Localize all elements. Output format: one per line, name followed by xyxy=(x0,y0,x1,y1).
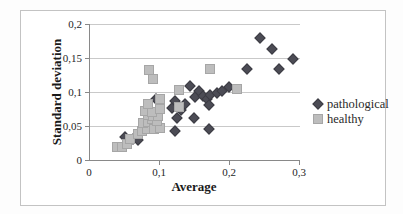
y-tick-label: 0 xyxy=(52,154,82,166)
data-point-healthy xyxy=(232,84,242,94)
y-tick-label: 0,1 xyxy=(52,86,82,98)
scatter-chart-canvas: Standard deviation Average pathologicalh… xyxy=(0,0,403,214)
y-tick-mark xyxy=(85,126,89,127)
legend-label: healthy xyxy=(327,112,364,126)
y-tick-mark xyxy=(85,24,89,25)
x-tick-label: 0 xyxy=(74,166,104,178)
chart-frame: Standard deviation Average pathologicalh… xyxy=(20,10,386,206)
y-tick-label: 0,15 xyxy=(52,52,82,64)
data-point-healthy xyxy=(155,94,165,104)
y-gridline xyxy=(90,58,300,59)
data-point-healthy xyxy=(174,102,184,112)
y-tick-mark xyxy=(85,92,89,93)
data-point-healthy xyxy=(155,104,165,114)
y-tick-mark xyxy=(85,160,89,161)
data-point-pathological xyxy=(241,63,252,74)
data-point-pathological xyxy=(188,112,199,123)
x-axis-title: Average xyxy=(171,179,216,195)
legend-item-pathological: pathological xyxy=(313,97,389,111)
y-gridline xyxy=(90,24,300,25)
data-point-pathological xyxy=(266,43,277,54)
data-point-healthy xyxy=(143,99,153,109)
data-point-pathological xyxy=(203,123,214,134)
data-point-pathological xyxy=(254,32,265,43)
x-tick-label: 0,1 xyxy=(144,166,174,178)
legend-label: pathological xyxy=(327,97,389,111)
x-tick-mark xyxy=(299,161,300,165)
y-tick-label: 0,05 xyxy=(52,120,82,132)
legend-marker-diamond-icon xyxy=(312,98,323,109)
data-point-pathological xyxy=(287,54,298,65)
plot-area xyxy=(89,24,300,161)
data-point-healthy xyxy=(174,85,184,95)
x-tick-mark xyxy=(159,161,160,165)
data-point-healthy xyxy=(144,65,154,75)
x-tick-label: 0,3 xyxy=(284,166,314,178)
y-tick-label: 0,2 xyxy=(52,18,82,30)
y-tick-mark xyxy=(85,58,89,59)
data-point-pathological xyxy=(273,63,284,74)
legend-marker-square-icon xyxy=(313,114,323,124)
x-tick-label: 0,2 xyxy=(214,166,244,178)
legend: pathologicalhealthy xyxy=(313,97,389,126)
x-tick-mark xyxy=(229,161,230,165)
y-gridline xyxy=(90,126,300,127)
data-point-healthy xyxy=(148,74,158,84)
legend-item-healthy: healthy xyxy=(313,112,389,126)
data-point-healthy xyxy=(205,64,215,74)
